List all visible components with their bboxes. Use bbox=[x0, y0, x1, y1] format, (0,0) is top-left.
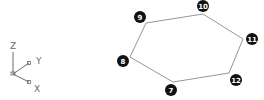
z-axis-label: Z bbox=[10, 41, 16, 51]
vertex-marker-8: 8 bbox=[117, 55, 129, 67]
hexagon-outline bbox=[130, 14, 243, 82]
vertex-7-label: 7 bbox=[169, 87, 174, 95]
vertex-marker-12: 12 bbox=[230, 74, 242, 86]
y-axis-label: Y bbox=[35, 56, 42, 66]
diagram-canvas: Z Y X 9 10 11 12 7 8 bbox=[0, 0, 264, 100]
vertex-12-label: 12 bbox=[231, 77, 241, 85]
vertex-marker-9: 9 bbox=[134, 11, 146, 23]
vertex-8-label: 8 bbox=[121, 58, 126, 66]
vertex-9-label: 9 bbox=[138, 14, 143, 22]
vertex-marker-10: 10 bbox=[197, 0, 209, 12]
vertex-marker-11: 11 bbox=[246, 33, 258, 45]
x-axis-label: X bbox=[34, 84, 40, 94]
axis-triad: Z Y X bbox=[10, 41, 42, 94]
vertex-11-label: 11 bbox=[247, 36, 257, 44]
vertex-10-label: 10 bbox=[198, 3, 208, 11]
vertex-marker-7: 7 bbox=[165, 84, 177, 96]
